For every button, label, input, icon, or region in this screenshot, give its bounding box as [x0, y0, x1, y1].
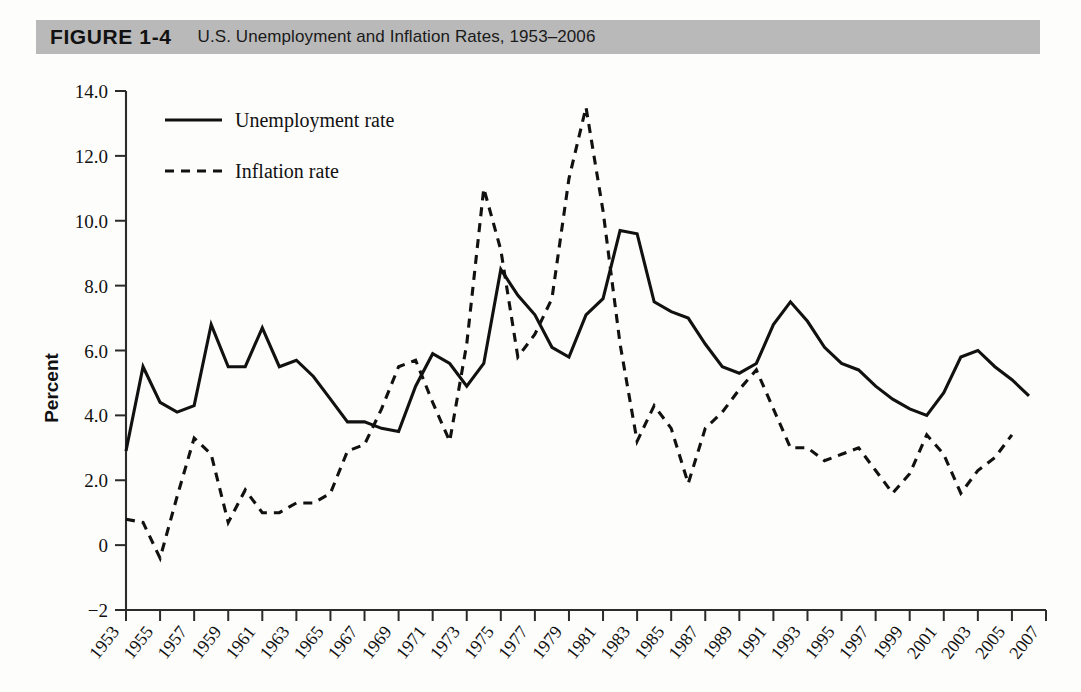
x-tick-label: 2005 [971, 622, 1009, 663]
x-tick-label: 1979 [528, 622, 566, 663]
x-tick-label: 1967 [324, 622, 362, 663]
figure-caption: U.S. Unemployment and Inflation Rates, 1… [198, 27, 596, 47]
y-tick-label: 0 [99, 535, 109, 556]
x-tick-label: 1965 [290, 622, 328, 663]
y-tick-label: −2 [88, 600, 108, 621]
y-tick-label: 10.0 [75, 211, 108, 232]
x-tick-label: 1957 [153, 622, 191, 663]
x-tick-label: 1995 [801, 622, 839, 663]
x-tick-label: 1983 [596, 622, 634, 663]
legend-label-inflation-rate: Inflation rate [235, 160, 339, 182]
y-tick-label: 8.0 [84, 276, 108, 297]
x-tick-label: 1971 [392, 622, 430, 663]
x-tick-label: 1987 [664, 622, 702, 663]
y-tick-label: 12.0 [75, 146, 108, 167]
x-tick-label: 1973 [426, 622, 464, 663]
x-tick-label: 1993 [767, 622, 805, 663]
figure-header-band: FIGURE 1-4 U.S. Unemployment and Inflati… [36, 20, 1040, 54]
x-tick-label: 1955 [119, 622, 157, 663]
x-tick-label: 1977 [494, 622, 532, 663]
chart-legend: Unemployment rate Inflation rate [165, 109, 395, 182]
y-tick-label: 6.0 [84, 341, 108, 362]
x-tick-label: 2001 [903, 622, 941, 663]
y-tick-label: 4.0 [84, 405, 108, 426]
x-tick-label: 1969 [358, 622, 396, 663]
x-tick-label: 1991 [733, 622, 771, 663]
y-tick-label: 14.0 [75, 81, 108, 102]
x-tick-label: 1981 [562, 622, 600, 663]
x-tick-label: 1961 [222, 622, 260, 663]
x-tick-label: 1975 [460, 622, 498, 663]
x-tick-label: 1985 [630, 622, 668, 663]
x-tick-label: 1999 [869, 622, 907, 663]
x-tick-label: 1963 [256, 622, 294, 663]
x-tick-label: 1997 [835, 622, 873, 663]
y-axis-title: Percent [41, 352, 62, 422]
x-tick-label: 2007 [1005, 622, 1043, 663]
figure-number-label: FIGURE 1-4 [50, 25, 172, 49]
x-tick-label: 1953 [85, 622, 123, 663]
x-tick-label: 2003 [937, 622, 975, 663]
x-tick-label: 1959 [187, 622, 225, 663]
legend-label-unemployment-rate: Unemployment rate [235, 109, 395, 132]
x-tick-label: 1989 [699, 622, 737, 663]
line-chart-svg: Percent 14.012.010.08.06.04.02.00−219531… [0, 58, 1081, 692]
chart-plot-area: Percent 14.012.010.08.06.04.02.00−219531… [0, 58, 1081, 692]
figure-container: FIGURE 1-4 U.S. Unemployment and Inflati… [0, 0, 1081, 692]
axes-group: 14.012.010.08.06.04.02.00−21953195519571… [75, 81, 1046, 663]
series-line-unemployment-rate [126, 230, 1029, 451]
y-tick-label: 2.0 [84, 470, 108, 491]
